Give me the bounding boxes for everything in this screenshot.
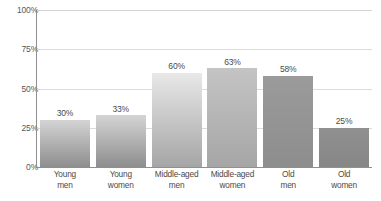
bar-series: 30% 33% 60% 63% 58%: [37, 10, 372, 167]
x-label-line1: Young: [37, 169, 93, 180]
y-tick-label-25: 25%: [4, 124, 38, 133]
bar-slot-old-men: 58%: [260, 10, 316, 167]
x-label-line2: women: [93, 180, 149, 191]
bar-chart: 100% 75% 50% 25% 0% 30% 33% 60%: [0, 0, 381, 201]
bar-slot-young-men: 30%: [37, 10, 93, 167]
x-label-line1: Old: [316, 169, 372, 180]
x-label-old-women: Old women: [316, 169, 372, 191]
bar-value-old-men: 58%: [280, 65, 296, 74]
bar-young-women[interactable]: 33%: [96, 115, 146, 167]
x-label-line2: men: [260, 180, 316, 191]
bar-old-women[interactable]: 25%: [319, 128, 369, 167]
bar-value-young-men: 30%: [57, 109, 73, 118]
bar-slot-middle-aged-women: 63%: [204, 10, 260, 167]
x-label-middle-aged-women: Middle-aged women: [204, 169, 260, 191]
y-tick-label-75: 75%: [4, 45, 38, 54]
x-label-young-men: Young men: [37, 169, 93, 191]
x-label-middle-aged-men: Middle-aged men: [149, 169, 205, 191]
bar-middle-aged-women[interactable]: 63%: [207, 68, 257, 167]
bar-value-middle-aged-women: 63%: [224, 58, 240, 67]
x-label-young-women: Young women: [93, 169, 149, 191]
y-tick-label-50: 50%: [4, 85, 38, 94]
y-tick-label-0: 0%: [4, 163, 38, 172]
bar-slot-old-women: 25%: [316, 10, 372, 167]
x-label-line2: women: [316, 180, 372, 191]
plot-area: 30% 33% 60% 63% 58%: [37, 10, 372, 167]
x-axis-labels: Young men Young women Middle-aged men Mi…: [37, 169, 372, 191]
bar-old-men[interactable]: 58%: [263, 76, 313, 167]
x-label-line2: men: [149, 180, 205, 191]
bar-middle-aged-men[interactable]: 60%: [152, 73, 202, 167]
bar-value-middle-aged-men: 60%: [168, 62, 184, 71]
x-label-line2: women: [204, 180, 260, 191]
x-label-line1: Middle-aged: [149, 169, 205, 180]
x-label-line2: men: [37, 180, 93, 191]
x-label-old-men: Old men: [260, 169, 316, 191]
x-label-line1: Young: [93, 169, 149, 180]
y-tick-label-100: 100%: [4, 6, 38, 15]
bar-young-men[interactable]: 30%: [40, 120, 90, 167]
figure-caption: [3, 194, 378, 201]
x-label-line1: Middle-aged: [204, 169, 260, 180]
x-axis-line: [37, 167, 372, 168]
bar-value-old-women: 25%: [336, 117, 352, 126]
bar-value-young-women: 33%: [113, 105, 129, 114]
bar-slot-young-women: 33%: [93, 10, 149, 167]
bar-slot-middle-aged-men: 60%: [149, 10, 205, 167]
x-label-line1: Old: [260, 169, 316, 180]
